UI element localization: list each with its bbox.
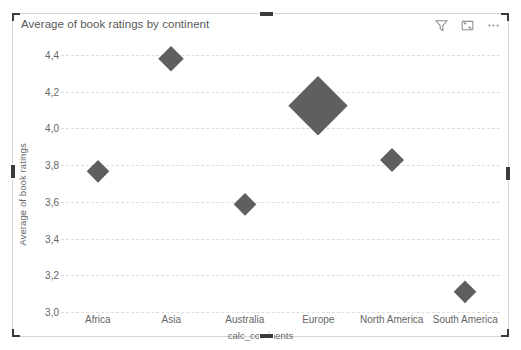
data-point-marker[interactable] [158, 46, 184, 72]
x-axis-tick-label: Asia [162, 314, 181, 325]
filter-icon[interactable] [434, 18, 449, 33]
x-axis-tick-label: South America [433, 314, 498, 325]
y-axis-title-label: Average of book ratings [17, 143, 28, 245]
page-title: Average of book ratings by continent [21, 18, 209, 30]
focus-mode-icon[interactable] [460, 18, 475, 33]
plot-region: Average of book ratings 3,03,23,43,63,84… [13, 38, 508, 338]
x-axis-tick-label: Australia [225, 314, 264, 325]
y-axis-tick-label: 3,6 [45, 196, 59, 207]
data-point-marker[interactable] [380, 148, 404, 172]
y-axis-tick-label: 4,4 [45, 50, 59, 61]
data-point-marker[interactable] [87, 160, 109, 182]
gridline [61, 202, 500, 203]
y-axis-tick-label: 3,2 [45, 270, 59, 281]
visual-header: Average of book ratings by continent [13, 14, 508, 38]
data-point-marker[interactable] [288, 76, 348, 136]
y-axis-tick-label: 3,4 [45, 233, 59, 244]
resize-handle-left-middle[interactable] [10, 164, 16, 179]
resize-handle-top-center[interactable] [259, 11, 274, 17]
gridline [61, 92, 500, 93]
plot-inner-area[interactable] [61, 38, 500, 338]
gridline [61, 55, 500, 56]
y-axis-tick-label: 3,0 [45, 307, 59, 318]
y-axis-tick-label: 4,2 [45, 86, 59, 97]
visual-header-actions [434, 18, 501, 33]
gridline [61, 312, 500, 313]
resize-handle-top-left[interactable] [12, 13, 21, 22]
x-axis-tick-label: Europe [302, 314, 334, 325]
resize-handle-bottom-left[interactable] [12, 328, 21, 337]
resize-handle-right-middle[interactable] [505, 166, 511, 181]
more-options-icon[interactable] [486, 18, 501, 33]
gridline [61, 128, 500, 129]
gridline [61, 239, 500, 240]
data-point-marker[interactable] [234, 193, 256, 215]
y-axis-tick-label: 4,0 [45, 123, 59, 134]
resize-handle-top-right[interactable] [500, 13, 509, 22]
gridline [61, 275, 500, 276]
gridline [61, 165, 500, 166]
y-axis-tick-labels: 3,03,23,43,63,84,04,24,4 [27, 38, 59, 338]
chart-visual-container[interactable]: Average of book ratings by continent [12, 13, 509, 337]
x-axis-tick-labels: AfricaAsiaAustraliaEuropeNorth AmericaSo… [61, 314, 500, 330]
x-axis-tick-label: North America [360, 314, 423, 325]
x-axis-tick-label: Africa [85, 314, 111, 325]
y-axis-tick-label: 3,8 [45, 160, 59, 171]
resize-handle-bottom-center[interactable] [259, 333, 274, 339]
resize-handle-bottom-right[interactable] [500, 328, 509, 337]
data-point-marker[interactable] [454, 280, 477, 303]
